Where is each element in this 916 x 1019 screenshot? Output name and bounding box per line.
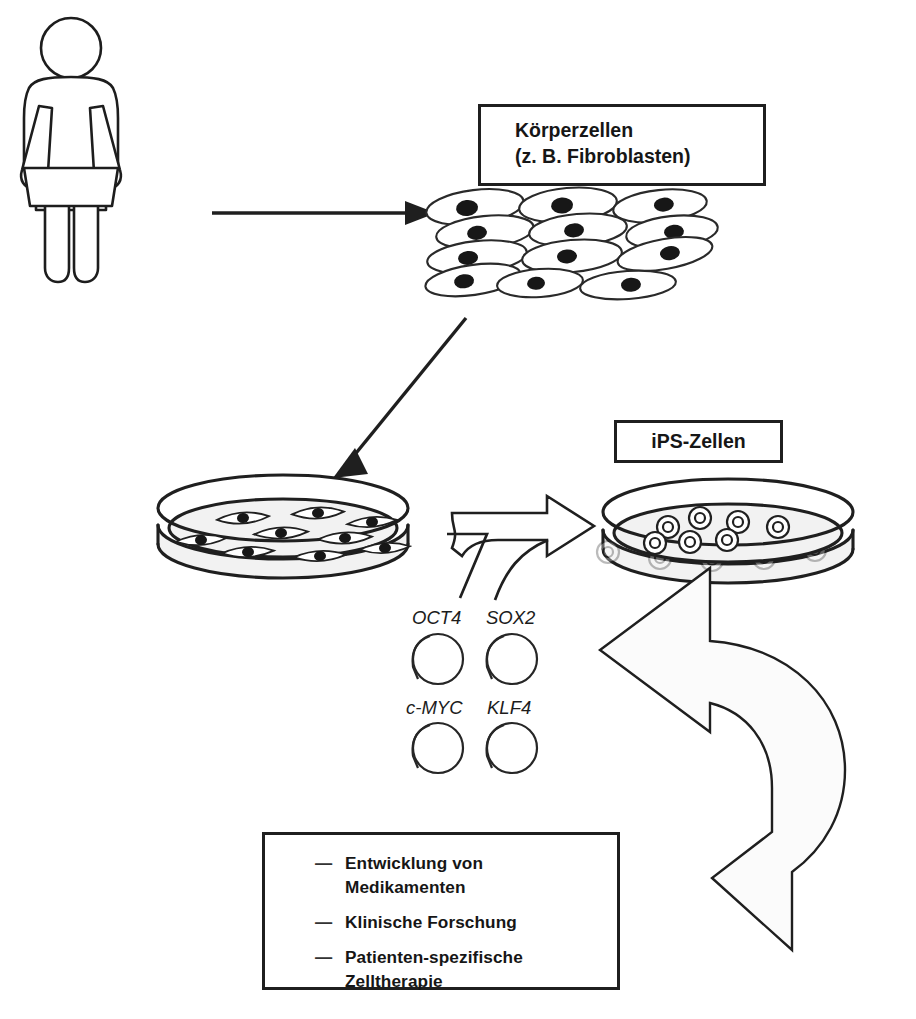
application-item-3-text: Patienten-spezifische Zelltherapie [345, 945, 523, 993]
application-item-1-line2: Medikamenten [345, 877, 466, 897]
gene-label-sox2: SOX2 [486, 607, 535, 629]
list-dash-icon: — [315, 851, 345, 875]
label-box-koerperzellen: Körperzellen (z. B. Fibroblasten) [478, 104, 766, 186]
application-item-1-text: Entwicklung von Medikamenten [345, 851, 483, 899]
application-item-2: — Klinische Forschung [265, 910, 617, 934]
arrow-ips-to-applications [600, 568, 845, 950]
gene-label-klf4: KLF4 [487, 697, 531, 719]
application-item-3: — Patienten-spezifische Zelltherapie [265, 945, 617, 993]
list-dash-icon: — [315, 945, 345, 969]
application-item-2-text: Klinische Forschung [345, 910, 517, 934]
petri-dish-fibroblasts [158, 475, 410, 578]
koerperzellen-line1: Körperzellen [515, 117, 763, 143]
plasmid-oct4-icon [413, 634, 463, 684]
plasmid-cmyc-icon [413, 723, 463, 773]
gene-label-oct4: OCT4 [412, 607, 461, 629]
plasmid-klf4-icon [487, 723, 537, 773]
gene-label-cmyc: c-MYC [406, 697, 463, 719]
arrow-reprogramming [452, 496, 594, 556]
arrow-person-to-cells [212, 201, 436, 225]
cropped-caption-fragment [636, 1006, 912, 1019]
application-item-2-line1: Klinische Forschung [345, 912, 517, 932]
application-item-1-line1: Entwicklung von [345, 853, 483, 873]
body-cell-sheet [423, 184, 719, 303]
application-item-3-line1: Patienten-spezifische [345, 947, 523, 967]
petri-dish-ips [597, 479, 853, 583]
koerperzellen-line2: (z. B. Fibroblasten) [515, 143, 763, 169]
application-item-3-line2: Zelltherapie [345, 971, 443, 991]
application-item-1: — Entwicklung von Medikamenten [265, 851, 617, 899]
list-dash-icon: — [315, 910, 345, 934]
patient-figure-icon [21, 18, 121, 282]
plasmid-sox2-icon [487, 634, 537, 684]
ips-label-text: iPS-Zellen [651, 430, 745, 453]
arrow-cells-to-dish [333, 318, 466, 478]
ips-reprogramming-diagram: Körperzellen (z. B. Fibroblasten) iPS-Ze… [0, 0, 916, 1019]
label-box-ips-zellen: iPS-Zellen [614, 420, 783, 463]
label-box-applications: — Entwicklung von Medikamenten — Klinisc… [262, 832, 620, 990]
